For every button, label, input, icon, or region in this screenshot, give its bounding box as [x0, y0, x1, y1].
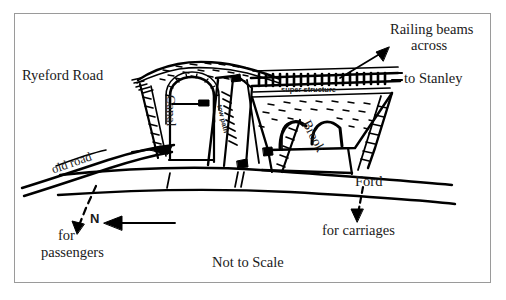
towpath-base-block: [237, 159, 248, 168]
label-ford: Ford: [355, 174, 382, 190]
ground-ticks: [167, 172, 244, 188]
ford-arrow-head: [351, 209, 363, 222]
canal-lintel-block: [199, 100, 209, 106]
label-ryeford-road: Ryeford Road: [22, 68, 103, 84]
railing-top-rail: [253, 67, 398, 71]
right-wingwall: [368, 93, 392, 168]
label-super-structure: super structure: [281, 86, 336, 94]
brook-block-left: [263, 147, 273, 156]
railing-callout-head: [376, 47, 389, 61]
label-for: for: [58, 228, 75, 244]
label-to-stanley: to Stanley: [404, 71, 462, 87]
figure-canvas: Ryeford Road to Stanley Railing beams ac…: [0, 0, 506, 300]
ground-line-upper: [60, 168, 452, 185]
brook-wall-right: [348, 148, 352, 174]
label-across: across: [411, 38, 447, 54]
towpath-cap-block: [231, 74, 241, 82]
label-passengers: passengers: [41, 245, 104, 261]
label-not-to-scale: Not to Scale: [212, 255, 284, 271]
ground-line-lower: [58, 190, 455, 204]
towpath-face: [240, 78, 252, 165]
label-north: N: [90, 212, 99, 226]
label-canal: Canal: [163, 95, 178, 127]
north-arrow-head: [104, 216, 122, 230]
label-for-carriages: for carriages: [322, 223, 395, 239]
label-railing-beams: Railing beams: [390, 22, 473, 38]
